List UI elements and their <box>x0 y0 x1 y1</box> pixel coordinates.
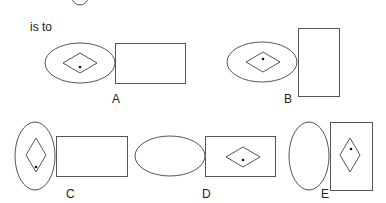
diamond-shape <box>63 53 97 73</box>
option-label-b[interactable]: B <box>284 93 292 105</box>
option-label-d[interactable]: D <box>202 188 211 200</box>
diamond-shape <box>246 52 280 72</box>
rectangle-shape <box>299 29 340 97</box>
ellipse-shape <box>227 42 297 82</box>
option-label-a[interactable]: A <box>112 93 120 105</box>
ellipse-shape <box>135 136 205 176</box>
diamond-shape <box>340 138 360 172</box>
option-c-figure[interactable] <box>15 122 128 190</box>
partial-circle-top <box>72 0 88 5</box>
ellipse-shape <box>15 122 55 190</box>
dot-marker <box>35 166 38 169</box>
rectangle-shape <box>331 123 373 191</box>
rectangle-shape <box>206 137 276 177</box>
ellipse-shape <box>45 43 115 83</box>
option-d-figure[interactable] <box>135 136 276 177</box>
option-label-c[interactable]: C <box>66 188 75 200</box>
dot-marker <box>79 66 82 69</box>
is-to-text: is to <box>30 21 52 33</box>
rectangle-shape <box>116 44 186 84</box>
ellipse-shape <box>289 122 329 190</box>
analogy-diagram <box>0 0 386 203</box>
dot-marker <box>262 58 265 61</box>
rectangle-shape <box>57 137 128 177</box>
option-b-figure[interactable] <box>227 29 340 97</box>
option-label-e[interactable]: E <box>321 188 329 200</box>
dot-marker <box>350 148 353 151</box>
option-a-figure[interactable] <box>45 43 186 84</box>
option-e-figure[interactable] <box>289 122 373 191</box>
dot-marker <box>242 159 245 162</box>
diamond-shape <box>226 147 260 167</box>
